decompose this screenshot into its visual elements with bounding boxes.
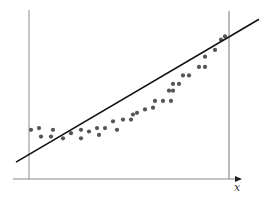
scatter-points (29, 34, 227, 140)
x-axis-label: x (234, 181, 241, 194)
data-point (169, 99, 173, 103)
data-point (121, 118, 125, 122)
data-point (87, 129, 91, 133)
data-point (111, 119, 115, 123)
data-point (69, 131, 73, 135)
data-point (51, 128, 55, 132)
data-point (167, 89, 171, 93)
data-point (171, 89, 175, 93)
data-point (161, 99, 165, 103)
data-point (213, 48, 217, 52)
data-point (203, 65, 207, 69)
data-point (49, 135, 53, 139)
data-point (129, 118, 133, 122)
data-point (135, 111, 139, 115)
data-point (171, 82, 175, 86)
data-point (197, 65, 201, 69)
data-point (143, 107, 147, 111)
scatter-chart: x (0, 0, 268, 203)
data-point (153, 99, 157, 103)
data-point (79, 128, 83, 132)
data-point (177, 82, 181, 86)
data-point (37, 126, 41, 130)
data-point (39, 135, 43, 139)
data-point (97, 133, 101, 137)
data-point (181, 73, 185, 77)
data-point (29, 128, 33, 132)
data-point (79, 136, 83, 140)
data-point (61, 136, 65, 140)
data-point (203, 55, 207, 59)
data-point (103, 126, 107, 130)
fit-line (16, 19, 259, 162)
data-point (187, 73, 191, 77)
data-point (131, 112, 135, 116)
data-point (95, 126, 99, 130)
data-point (151, 106, 155, 110)
data-point (115, 128, 119, 132)
